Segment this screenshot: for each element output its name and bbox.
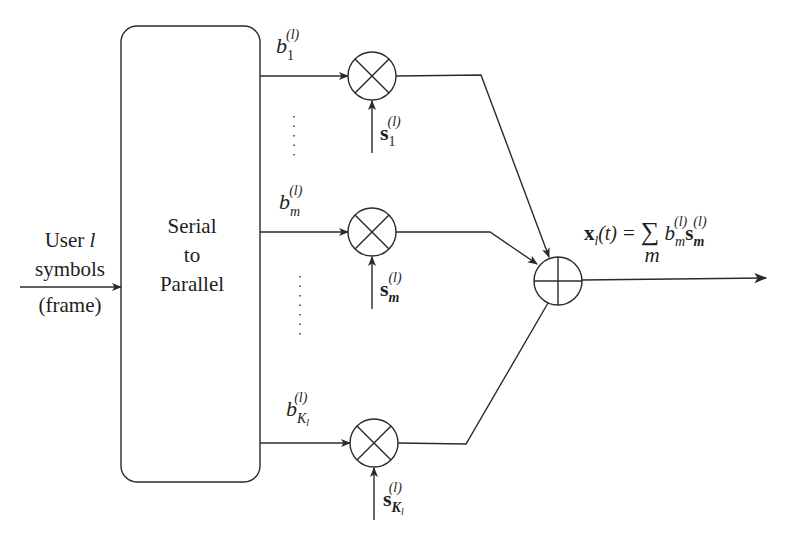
sum-path-1 [396,75,549,257]
sum-index: m [644,243,659,267]
b-label-m: bm(l) [279,183,303,219]
sum-path-m [396,232,537,264]
b-label-K: bKl(l) [286,390,309,428]
input-label-line3: (frame) [39,293,102,317]
b-label-1: b1(l) [276,27,300,63]
input-label-line2: symbols [35,257,105,281]
multiplier-1 [348,52,396,100]
multiplier-m [348,208,396,256]
input-label-line1: User l [45,228,96,252]
s-label-K: sKl(l) [383,480,404,517]
output-arrow [582,278,766,280]
block-label-line1: Serial [168,214,217,238]
sum-path-K [398,303,548,444]
s-label-1: s1(l) [380,114,401,149]
s-label-m: sm(l) [380,270,402,305]
serial-to-parallel-diagram: User l symbols (frame) Serial to Paralle… [0,0,785,540]
block-label-line3: Parallel [160,272,224,296]
multiplier-K [350,419,398,467]
block-label-line2: to [184,243,200,267]
adder [534,257,582,305]
